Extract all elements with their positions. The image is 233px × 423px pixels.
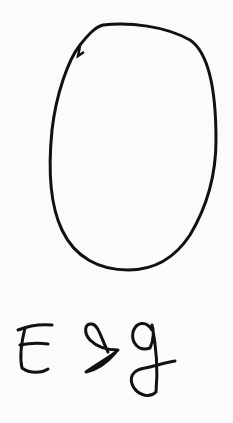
handwritten-label	[18, 323, 175, 395]
egg-outline	[50, 24, 216, 270]
egg-drawing	[0, 0, 233, 423]
pen-tick-mark	[78, 46, 84, 56]
